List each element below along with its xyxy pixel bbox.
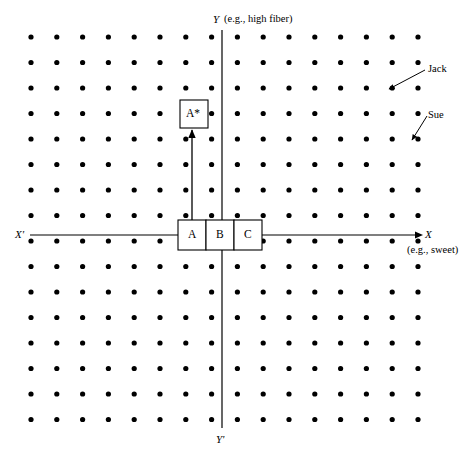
consumer-dot xyxy=(286,34,291,39)
consumer-dot xyxy=(132,136,137,141)
y-axis-label: Y xyxy=(213,14,219,25)
consumer-dot xyxy=(80,60,85,65)
consumer-dot xyxy=(235,391,240,396)
consumer-dot xyxy=(286,315,291,320)
consumer-dot xyxy=(80,162,85,167)
consumer-dot xyxy=(80,85,85,90)
consumer-dot xyxy=(364,85,369,90)
consumer-dot xyxy=(209,366,214,371)
consumer-dot xyxy=(364,417,369,422)
consumer-dot xyxy=(209,34,214,39)
consumer-dot xyxy=(209,340,214,345)
consumer-dot xyxy=(390,213,395,218)
consumer-dot xyxy=(312,136,317,141)
consumer-dot xyxy=(286,264,291,269)
consumer-dot xyxy=(209,60,214,65)
consumer-dot xyxy=(235,34,240,39)
consumer-dot xyxy=(261,85,266,90)
consumer-dot xyxy=(415,187,420,192)
consumer-dot xyxy=(312,187,317,192)
consumer-dot xyxy=(338,315,343,320)
consumer-dot xyxy=(390,289,395,294)
consumer-dot xyxy=(183,289,188,294)
consumer-dot xyxy=(390,34,395,39)
consumer-dot xyxy=(209,315,214,320)
consumer-dot xyxy=(132,162,137,167)
consumer-dot xyxy=(390,366,395,371)
consumer-dot xyxy=(286,187,291,192)
consumer-dot xyxy=(209,85,214,90)
consumer-dot xyxy=(286,213,291,218)
consumer-dot xyxy=(261,187,266,192)
consumer-dot xyxy=(54,187,59,192)
consumer-dot xyxy=(209,391,214,396)
consumer-dot xyxy=(338,187,343,192)
consumer-dot xyxy=(261,60,266,65)
consumer-dot xyxy=(415,315,420,320)
consumer-dot xyxy=(28,213,33,218)
consumer-dot xyxy=(157,85,162,90)
consumer-dot xyxy=(106,111,111,116)
consumer-dot xyxy=(80,111,85,116)
consumer-dot xyxy=(338,60,343,65)
diagram-canvas: Y (e.g., high fiber) Y' X' X (e.g., swee… xyxy=(0,0,474,456)
consumer-dot xyxy=(390,264,395,269)
consumer-dot xyxy=(132,315,137,320)
consumer-dot xyxy=(157,264,162,269)
consumer-dot xyxy=(364,264,369,269)
consumer-dot xyxy=(364,238,369,243)
consumer-dot xyxy=(132,264,137,269)
consumer-dot xyxy=(261,340,266,345)
x-axis-arrow-icon xyxy=(415,232,423,239)
consumer-dot xyxy=(183,264,188,269)
consumer-dot xyxy=(80,187,85,192)
consumer-dot xyxy=(235,162,240,167)
consumer-dot xyxy=(157,136,162,141)
consumer-dot xyxy=(338,391,343,396)
consumer-dot xyxy=(54,366,59,371)
consumer-dot xyxy=(106,417,111,422)
consumer-dot xyxy=(415,366,420,371)
consumer-dot xyxy=(54,238,59,243)
consumer-dot xyxy=(235,264,240,269)
consumer-dot xyxy=(132,60,137,65)
consumer-dot xyxy=(132,366,137,371)
consumer-dot xyxy=(28,34,33,39)
consumer-dot xyxy=(364,340,369,345)
consumer-dot xyxy=(286,366,291,371)
consumer-dot xyxy=(80,34,85,39)
consumer-dot xyxy=(106,60,111,65)
consumer-dot xyxy=(286,289,291,294)
consumer-dot xyxy=(28,340,33,345)
consumer-dot xyxy=(261,315,266,320)
consumer-dot xyxy=(106,289,111,294)
target-box-a-star-label: A* xyxy=(186,108,200,120)
consumer-dot xyxy=(235,85,240,90)
consumer-dot xyxy=(286,60,291,65)
consumer-dot xyxy=(28,391,33,396)
y-axis-negative-label: Y' xyxy=(216,434,224,445)
consumer-dot xyxy=(28,417,33,422)
consumer-dot xyxy=(209,289,214,294)
consumer-dot xyxy=(312,366,317,371)
brand-box-b-label: B xyxy=(216,229,224,241)
consumer-dot xyxy=(54,264,59,269)
consumer-dot xyxy=(364,315,369,320)
consumer-dot xyxy=(106,264,111,269)
consumer-dot xyxy=(235,60,240,65)
consumer-dot xyxy=(286,417,291,422)
consumer-dot xyxy=(157,60,162,65)
consumer-dot xyxy=(261,264,266,269)
consumer-dot xyxy=(54,289,59,294)
consumer-dot xyxy=(338,417,343,422)
consumer-dot xyxy=(183,391,188,396)
consumer-dot xyxy=(183,340,188,345)
consumer-dot xyxy=(338,111,343,116)
consumer-dot xyxy=(209,417,214,422)
consumer-dot xyxy=(364,34,369,39)
consumer-dot xyxy=(80,315,85,320)
x-axis-label: X xyxy=(425,229,432,240)
consumer-dot xyxy=(261,136,266,141)
consumer-dot xyxy=(261,162,266,167)
consumer-dot xyxy=(157,238,162,243)
